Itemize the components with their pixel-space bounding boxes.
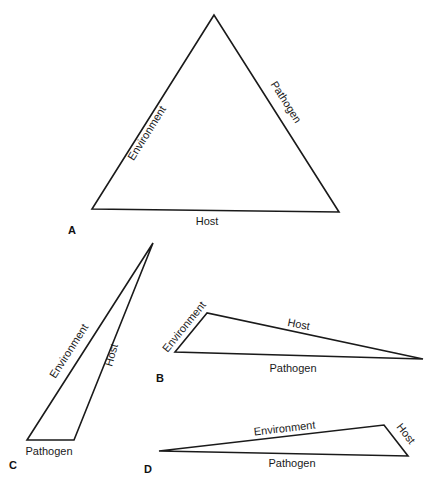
triangle-c bbox=[27, 243, 153, 440]
disease-triangle-figure: Environment Pathogen Host A Environment … bbox=[0, 0, 437, 487]
panel-d: Environment Host Pathogen D bbox=[144, 419, 418, 475]
triangle-b-environment-label: Environment bbox=[160, 299, 208, 355]
triangle-a-pathogen-label: Pathogen bbox=[269, 79, 304, 125]
triangle-a-environment-label: Environment bbox=[125, 104, 168, 163]
panel-b: Environment Host Pathogen B bbox=[156, 299, 423, 384]
panel-b-label: B bbox=[156, 372, 164, 384]
panel-c-label: C bbox=[9, 459, 17, 471]
panel-a: Environment Pathogen Host A bbox=[68, 15, 339, 236]
panel-a-label: A bbox=[68, 224, 76, 236]
triangle-d-pathogen-label: Pathogen bbox=[268, 457, 315, 469]
triangle-b-host-label: Host bbox=[287, 316, 312, 332]
triangle-a-host-label: Host bbox=[196, 215, 219, 227]
triangle-c-host-label: Host bbox=[102, 342, 120, 367]
panel-c: Environment Host Pathogen C bbox=[9, 243, 153, 471]
triangle-c-pathogen-label: Pathogen bbox=[25, 445, 72, 457]
triangle-b-pathogen-label: Pathogen bbox=[269, 362, 316, 374]
panel-d-label: D bbox=[144, 463, 152, 475]
